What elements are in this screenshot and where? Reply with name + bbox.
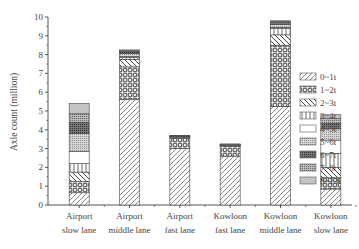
legend-item: 3~4t [300,111,337,121]
legend-label: 1~2t [320,85,337,95]
bar-segment [69,182,89,193]
x-category-label: Kowloon [264,211,298,221]
legend-item: 6~7t [300,150,337,160]
y-axis-label: Axle count (million) [9,73,20,151]
legend-swatch [300,125,316,132]
y-tick-label: 8 [39,50,44,60]
bar-segment [170,135,190,136]
x-category-label: Airport [66,211,93,221]
y-tick-label: 0 [39,200,44,210]
bar-segment [271,21,291,22]
bar-segment [69,172,89,181]
bar-segment [69,114,89,122]
stacked-bar-chart: Axle count (million) 012345678910 Airpor… [0,0,359,249]
x-category-label: fast lane [165,225,195,235]
bar-segment [271,25,291,28]
x-category-label: Airport [116,211,143,221]
bar-stack [220,144,240,205]
legend-label: 3~4t [320,111,337,121]
legend-swatch [300,99,316,106]
bar-segment [69,193,89,205]
y-tick-label: 3 [39,144,44,154]
bar-segment [69,164,89,172]
bar-segment [120,67,140,100]
y-tick-label: 5 [39,106,44,116]
legend-swatch [300,86,316,93]
legend-item: 5~6t [300,137,337,147]
legend: 0~1t1~2t2~3t3~4t4~5t5~6t6~7t7~8t8~13t [300,72,341,186]
bar-segment [220,144,240,145]
bar-segment [220,146,240,156]
x-category-label: slow lane [314,225,348,235]
legend-label: 2~3t [320,98,337,108]
y-tick-label: 1 [39,181,44,191]
legend-label: 8~13t [320,176,341,186]
bar-segment [120,50,140,51]
legend-swatch [300,73,316,80]
legend-item: 1~2t [300,85,337,95]
bar-segment [69,134,89,152]
x-category-label: Kowloon [314,211,348,221]
x-category-label: Airport [167,211,194,221]
bar-stack [170,135,190,205]
bar-segment [271,35,291,45]
x-category-label: middle lane [108,225,150,235]
y-tick-label: 10 [34,12,44,22]
bar-segment [220,156,240,205]
bar-segment [170,149,190,205]
y-tick-label: 2 [39,162,44,172]
x-category-label: Kowloon [213,211,247,221]
bar-segment [321,189,341,205]
legend-label: 6~7t [320,150,337,160]
bar-stack [69,103,89,205]
y-tick-label: 4 [39,125,44,135]
legend-label: 5~6t [320,137,337,147]
y-tick-label: 9 [39,31,44,41]
bar-segment [271,28,291,35]
legend-label: 4~5t [320,124,337,134]
legend-swatch [300,138,316,145]
legend-swatch [300,151,316,158]
legend-item: 4~5t [300,124,337,134]
legend-label: 0~1t [320,72,337,82]
bar-stack [271,21,291,205]
x-category-label: fast lane [215,225,245,235]
bar-segment [69,151,89,163]
x-category-label: slow lane [62,225,96,235]
legend-swatch [300,164,316,171]
y-tick-label: 7 [39,68,44,78]
bar-segment [170,138,190,148]
legend-item: 7~8t [300,163,337,173]
x-axis-labels: Airportslow laneAirportmiddle laneAirpor… [62,211,348,235]
legend-item: 8~13t [300,176,341,186]
y-tick-label: 6 [39,87,44,97]
bar-segment [120,59,140,67]
legend-item: 2~3t [300,98,337,108]
bar-stack [120,50,140,205]
legend-item: 0~1t [300,72,337,82]
bar-segment [120,100,140,205]
bar-segment [69,122,89,133]
legend-swatch [300,112,316,119]
bar-segment [69,103,89,113]
legend-swatch [300,177,316,184]
legend-label: 7~8t [320,163,337,173]
bar-segment [271,45,291,106]
bar-segment [120,54,140,57]
bar-segment [271,106,291,205]
x-category-label: middle lane [259,225,301,235]
